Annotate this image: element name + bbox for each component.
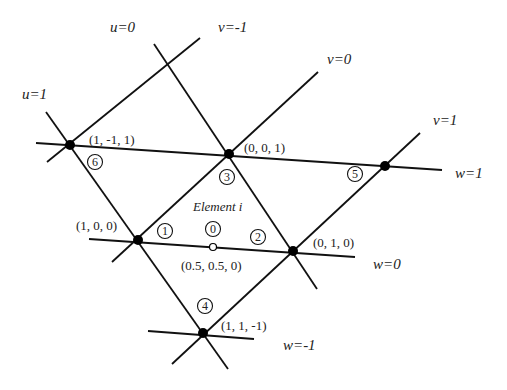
node-number-n1: 1 bbox=[162, 224, 168, 238]
line-label-u0: u=0 bbox=[110, 19, 136, 35]
line-labels: u=1u=0v=-1v=0v=1w=1w=0w=-1 bbox=[22, 19, 483, 353]
node-coord-n6: (1, -1, 1) bbox=[89, 132, 135, 147]
diagram-svg: u=1u=0v=-1v=0v=1w=1w=0w=-1 (1, -1, 1)6(0… bbox=[0, 0, 507, 390]
node-number-n4: 4 bbox=[202, 299, 208, 313]
midpoint-group: (0.5, 0.5, 0)0 bbox=[181, 222, 242, 274]
node-n6 bbox=[65, 140, 75, 150]
line-label-vm1: v=-1 bbox=[218, 19, 247, 35]
line-label-u1: u=1 bbox=[22, 86, 47, 102]
node-coord-n2: (0, 1, 0) bbox=[313, 235, 354, 250]
node-n2 bbox=[288, 246, 298, 256]
node-number-n6: 6 bbox=[92, 155, 98, 169]
line-label-v0: v=0 bbox=[327, 51, 352, 67]
node-number-n5: 5 bbox=[352, 167, 358, 181]
node-coord-n4: (1, 1, -1) bbox=[221, 318, 267, 333]
element-stencil-diagram: u=1u=0v=-1v=0v=1w=1w=0w=-1 (1, -1, 1)6(0… bbox=[0, 0, 507, 390]
line-label-wm1: w=-1 bbox=[283, 337, 316, 353]
node-n1 bbox=[133, 235, 143, 245]
node-number-n2: 2 bbox=[255, 230, 261, 244]
midpoint-node bbox=[210, 244, 217, 251]
element-label: Element i bbox=[192, 199, 243, 214]
line-label-v1: v=1 bbox=[433, 112, 457, 128]
node-number-n3: 3 bbox=[224, 170, 230, 184]
midpoint-coord: (0.5, 0.5, 0) bbox=[181, 258, 242, 273]
node-n5 bbox=[380, 161, 390, 171]
node-coord-n3: (0, 0, 1) bbox=[244, 140, 285, 155]
node-coord-n1: (1, 0, 0) bbox=[76, 218, 117, 233]
node-n3 bbox=[224, 149, 234, 159]
node-n4 bbox=[198, 328, 208, 338]
midpoint-number: 0 bbox=[210, 222, 216, 236]
line-label-w1: w=1 bbox=[455, 165, 483, 181]
line-label-w0: w=0 bbox=[373, 256, 401, 272]
